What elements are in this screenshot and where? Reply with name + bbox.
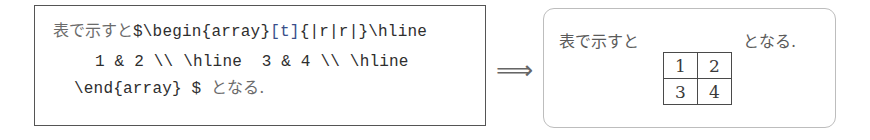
table-cell: 1 [664,53,698,79]
source-jp-prefix: 表で示すと [53,21,133,40]
latex-source-box: 表で示すと$\begin{array}[t]{|r|r|}\hline 1 & … [34,5,486,126]
source-code-begin-array: $\begin{array} [133,23,270,41]
source-code-colspec: {|r|r|}\hline [300,23,427,41]
source-jp-suffix: となる. [211,78,264,97]
source-code-end-array: \end{array} $ [74,80,211,98]
table-row: 1 2 [664,53,732,79]
table-cell: 4 [698,79,732,105]
source-line-1: 表で示すと$\begin{array}[t]{|r|r|}\hline [53,22,427,41]
result-table: 1 2 3 4 [663,52,732,105]
rendered-result-box: 表で示すと 1 2 3 4 となる. [543,8,836,128]
table-cell: 2 [698,53,732,79]
table-cell: 3 [664,79,698,105]
source-line-3: \end{array} $ となる. [74,79,264,98]
result-suffix-text: となる. [743,32,796,52]
result-prefix-text: 表で示すと [559,32,639,52]
table-row: 3 4 [664,79,732,105]
source-code-option: [t] [270,23,299,41]
source-line-2: 1 & 2 \\ \hline 3 & 4 \\ \hline [95,52,409,71]
double-right-arrow-icon: ⟹ [496,56,533,84]
source-code-rows: 1 & 2 \\ \hline 3 & 4 \\ \hline [95,53,409,71]
